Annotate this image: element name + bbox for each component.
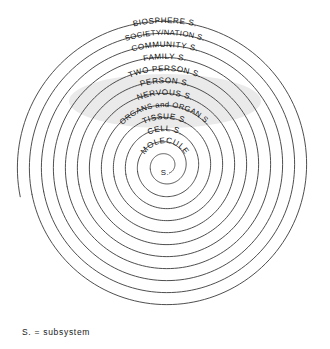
ring-label-textpath: FAMILY S. (142, 52, 187, 63)
ring-label: MOLECULE (139, 136, 191, 156)
ring-label: BIOSPHERE S. (132, 16, 198, 29)
spiral-diagram: BIOSPHERE S.SOCIETY/NATION S.COMMUNITY S… (0, 0, 330, 349)
ring-label: FAMILY S. (142, 52, 187, 63)
ring-label: COMMUNITY S. (131, 40, 200, 54)
ring-label-textpath: COMMUNITY S. (131, 40, 200, 54)
ring-arc (17, 21, 306, 304)
footnote-legend: S. = subsystem (22, 327, 90, 337)
ring-label-textpath: MOLECULE (139, 136, 191, 156)
ring-label-textpath: BIOSPHERE S. (132, 16, 198, 29)
ring-layer (17, 21, 306, 304)
center-label: S. (161, 168, 169, 177)
spiral-svg: BIOSPHERE S.SOCIETY/NATION S.COMMUNITY S… (0, 0, 330, 349)
